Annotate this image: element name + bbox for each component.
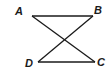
label-point-d: D <box>25 58 33 69</box>
label-point-a: A <box>15 6 23 17</box>
label-point-c: C <box>97 57 105 68</box>
label-point-b: B <box>94 5 102 16</box>
